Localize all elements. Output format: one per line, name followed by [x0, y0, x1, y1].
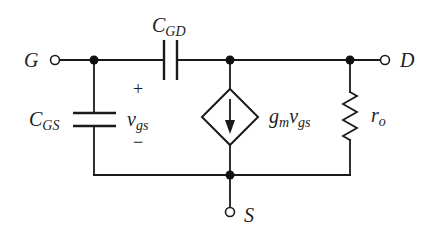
cgd-label: CGD: [152, 14, 186, 39]
circuit-diagram: G D S CGD CGS + vgs − gmvgs ro: [0, 0, 439, 230]
vgs-minus-sign: −: [133, 132, 143, 152]
gm-vgs-label: gmvgs: [269, 105, 311, 130]
circuit-svg: G D S CGD CGS + vgs − gmvgs ro: [0, 0, 439, 230]
dependent-current-source: [202, 60, 258, 175]
cgs-branch: [73, 60, 116, 175]
drain-terminal: [381, 56, 390, 65]
junction-drain-source: [226, 56, 235, 65]
source-terminal: [226, 208, 235, 217]
source-label: S: [244, 204, 254, 226]
cgs-label: CGS: [29, 108, 59, 133]
ro-label: ro: [371, 104, 386, 129]
junction-source: [226, 171, 235, 180]
arrow-down-icon: [225, 120, 235, 134]
vgs-label: vgs: [127, 108, 149, 133]
ro-resistor: [343, 60, 357, 175]
cgd-capacitor: [164, 40, 177, 80]
gate-label: G: [24, 49, 39, 71]
gate-terminal: [51, 56, 60, 65]
junction-drain: [346, 56, 355, 65]
junction-gate: [90, 56, 99, 65]
drain-label: D: [399, 49, 415, 71]
vgs-plus-sign: +: [133, 79, 143, 99]
